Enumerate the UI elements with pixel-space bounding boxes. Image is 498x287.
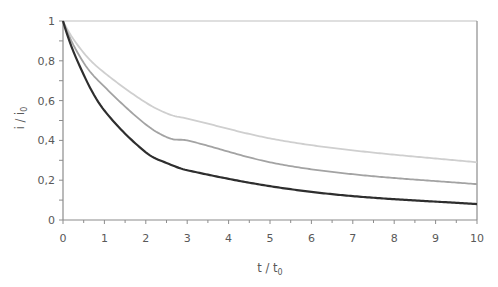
x-tick-label: 1 [101, 232, 108, 245]
y-tick-label: 0,4 [38, 134, 56, 147]
mid-curve [63, 21, 477, 184]
y-tick-label: 0,8 [38, 55, 56, 68]
y-axis-label: i / i0 [13, 107, 29, 130]
y-axis-ticks: 00,20,40,60,81 [38, 15, 64, 227]
x-tick-label: 9 [432, 232, 439, 245]
x-axis-label-subscript: 0 [278, 268, 283, 277]
y-tick-label: 0 [48, 214, 55, 227]
x-tick-label: 5 [267, 232, 274, 245]
y-axis-label-subscript: 0 [20, 107, 29, 112]
light-curve [63, 21, 477, 162]
x-axis-ticks: 012345678910 [60, 220, 485, 245]
chart: 012345678910 00,20,40,60,81 t / t0 i / i… [0, 0, 498, 287]
x-tick-label: 3 [184, 232, 191, 245]
y-tick-label: 0,6 [38, 95, 56, 108]
x-tick-label: 8 [391, 232, 398, 245]
series-layer [63, 21, 477, 204]
y-tick-label: 0,2 [38, 174, 56, 187]
x-tick-label: 10 [470, 232, 484, 245]
dark-curve [63, 21, 477, 204]
x-tick-label: 6 [308, 232, 315, 245]
y-tick-label: 1 [48, 15, 55, 28]
plot-frame [63, 21, 477, 220]
x-tick-label: 7 [349, 232, 356, 245]
x-tick-label: 2 [142, 232, 149, 245]
y-axis-label-main: i / i [13, 112, 27, 130]
x-tick-label: 0 [60, 232, 67, 245]
x-axis-label-main: t / t [257, 261, 278, 275]
x-axis-label: t / t0 [257, 261, 282, 277]
x-tick-label: 4 [225, 232, 232, 245]
